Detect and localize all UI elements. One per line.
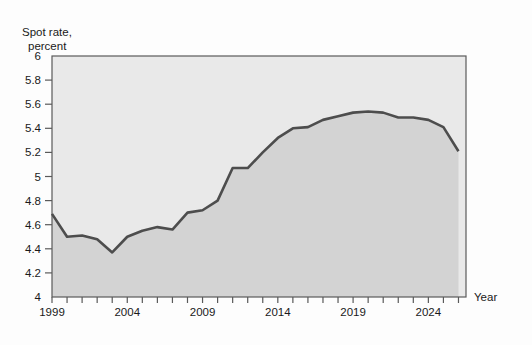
y-tick-label: 5.2	[25, 146, 41, 158]
y-tick-label: 4.4	[25, 243, 42, 255]
x-tick-label: 2009	[190, 306, 216, 318]
x-tick-label: 1999	[39, 306, 65, 318]
x-tick-label: 2004	[114, 306, 140, 318]
y-tick-label: 5.6	[25, 98, 41, 110]
x-tick-label: 2019	[340, 306, 366, 318]
x-axis-title: Year	[474, 291, 497, 303]
y-axis-title-line1: Spot rate,	[22, 26, 72, 38]
y-tick-label: 5	[35, 171, 41, 183]
y-tick-label: 4.8	[25, 195, 41, 207]
y-tick-label: 4.2	[25, 267, 41, 279]
x-tick-label: 2014	[265, 306, 291, 318]
x-tick-label: 2024	[416, 306, 442, 318]
y-tick-label: 5.8	[25, 74, 41, 86]
y-tick-label: 5.4	[25, 122, 42, 134]
y-tick-label: 4.6	[25, 219, 41, 231]
spot-rate-line-chart: Spot rate, percent Year 44.24.44.64.855.…	[0, 0, 532, 345]
y-tick-label: 4	[35, 291, 42, 303]
chart-figure: Spot rate, percent Year 44.24.44.64.855.…	[0, 0, 532, 345]
y-tick-label: 6	[35, 50, 41, 62]
